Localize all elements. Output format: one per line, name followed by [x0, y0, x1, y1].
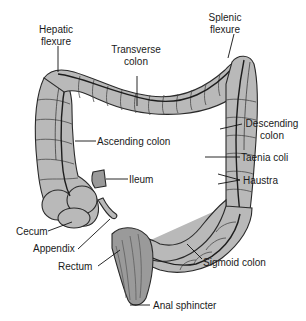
label-splenic-flexure-2: flexure [210, 24, 240, 35]
label-appendix: Appendix [33, 243, 75, 254]
label-taenia-coli: Taenia coli [241, 152, 288, 163]
descending-colon-shape [226, 56, 257, 215]
ascending-colon-shape [35, 78, 98, 228]
label-descending-colon-1: Descending [246, 118, 299, 129]
label-sigmoid-colon: Sigmoid colon [203, 257, 266, 268]
appendix-shape [98, 198, 117, 219]
label-cecum: Cecum [16, 226, 48, 237]
label-haustra: Haustra [243, 175, 278, 186]
rectum-shape [112, 228, 153, 305]
label-ascending-colon: Ascending colon [97, 136, 170, 147]
label-ileum: Ileum [129, 174, 153, 185]
label-anal-sphincter: Anal sphincter [153, 300, 217, 311]
colon-anatomy-diagram: Hepatic flexure Transverse colon Splenic… [0, 0, 306, 321]
ileum-shape [92, 170, 106, 188]
label-descending-colon-2: colon [260, 130, 284, 141]
label-rectum: Rectum [58, 261, 92, 272]
label-splenic-flexure-1: Splenic [209, 12, 242, 23]
transverse-colon-shape [44, 60, 246, 115]
label-hepatic-flexure-2: flexure [41, 36, 71, 47]
label-transverse-colon-1: Transverse [111, 44, 161, 55]
label-hepatic-flexure-1: Hepatic [39, 24, 73, 35]
label-transverse-colon-2: colon [124, 56, 148, 67]
